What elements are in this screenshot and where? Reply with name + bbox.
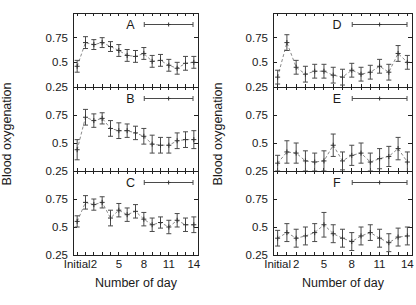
- panel-C-xtick-label: 5: [116, 258, 122, 270]
- panel-F-xtick-label: Initial: [264, 258, 291, 270]
- panel-F-xtick-label: 14: [401, 258, 414, 270]
- panel-F-xtick-label: 2: [293, 258, 299, 270]
- panel-F-legend-label: F: [333, 176, 341, 190]
- panel-C-xtick-label: 11: [163, 258, 175, 270]
- panel-E-legend-label: E: [333, 92, 341, 106]
- panel-C-xtick-label: 8: [141, 258, 147, 270]
- panel-E-ytick-label: 0.75: [246, 109, 268, 121]
- panel-C-ytick-label: 0.5: [52, 221, 68, 233]
- panel-B-ytick-label: 0.25: [46, 165, 68, 177]
- panel-B: 0.250.50.75B: [46, 87, 198, 177]
- panel-D-legend-label: D: [332, 18, 341, 32]
- figure-canvas: 0.250.50.75A0.250.50.75B0.250.50.75Initi…: [0, 0, 416, 305]
- panel-D-ytick-label: 0.25: [246, 81, 268, 93]
- panel-E-ytick-label: 0.5: [252, 137, 268, 149]
- panel-E-ytick-label: 0.25: [246, 165, 268, 177]
- panel-C-xtick-label: 2: [91, 258, 97, 270]
- panel-D-series: [275, 35, 410, 85]
- x-axis-label-right: Number of day: [302, 276, 385, 290]
- panel-C: 0.250.50.75Initial2581114C: [46, 171, 201, 270]
- y-axis-label-right: Blood oxygenation: [211, 83, 225, 186]
- panel-A-ytick-label: 0.5: [52, 56, 68, 68]
- y-axis-label-left: Blood oxygenation: [0, 83, 14, 186]
- panel-F-series: [275, 212, 410, 251]
- panel-A-legend-label: A: [126, 18, 135, 32]
- panel-F-legend: F: [333, 176, 407, 190]
- panel-C-series: [75, 196, 197, 234]
- panel-A-ytick-label: 0.25: [46, 81, 68, 93]
- panel-F-xtick-label: 8: [349, 258, 355, 270]
- panel-F-ytick-label: 0.75: [246, 193, 268, 205]
- panel-C-xtick-label: Initial: [64, 258, 91, 270]
- figure: 0.250.50.75A0.250.50.75B0.250.50.75Initi…: [0, 0, 416, 305]
- panel-F-xtick-label: 11: [374, 258, 386, 270]
- panel-A-series: [75, 37, 197, 74]
- panel-E-series: [275, 134, 410, 172]
- panel-B-ytick-label: 0.75: [46, 109, 68, 121]
- panel-E-legend: E: [333, 92, 407, 106]
- panel-A: 0.250.50.75A: [46, 13, 198, 93]
- panel-F: 0.250.50.75Initial2581114F: [246, 171, 415, 270]
- chart-panels: 0.250.50.75A0.250.50.75B0.250.50.75Initi…: [46, 13, 415, 270]
- panel-C-ytick-label: 0.75: [46, 193, 68, 205]
- panel-F-ytick-label: 0.5: [252, 221, 268, 233]
- panel-F-xtick-label: 5: [321, 258, 327, 270]
- panel-C-xtick-label: 14: [187, 258, 200, 270]
- panel-A-legend: A: [126, 18, 193, 32]
- panel-D-ytick-label: 0.5: [252, 56, 268, 68]
- panel-B-series: [75, 109, 197, 159]
- panel-D: 0.250.50.75D: [246, 13, 412, 93]
- panel-D-ytick-label: 0.75: [246, 32, 268, 44]
- x-axis-label-left: Number of day: [95, 276, 178, 290]
- panel-D-legend: D: [332, 18, 407, 32]
- panel-A-ytick-label: 0.75: [46, 32, 68, 44]
- panel-C-legend-label: C: [126, 176, 135, 190]
- panel-B-legend: B: [126, 92, 193, 106]
- panel-E: 0.250.50.75E: [246, 87, 412, 177]
- panel-B-ytick-label: 0.5: [52, 137, 68, 149]
- panel-C-legend: C: [126, 176, 193, 190]
- panel-B-legend-label: B: [126, 92, 134, 106]
